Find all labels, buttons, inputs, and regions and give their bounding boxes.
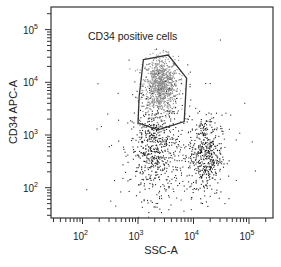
event-dot: [159, 95, 160, 96]
event-dot: [172, 82, 173, 83]
event-dot: [162, 62, 163, 63]
event-dot: [185, 146, 186, 147]
event-dot: [173, 189, 174, 190]
event-dot: [183, 158, 184, 159]
event-dot: [144, 140, 145, 141]
event-dot: [160, 78, 161, 79]
event-dot: [209, 174, 210, 175]
event-dot: [211, 171, 212, 172]
event-dot: [150, 71, 151, 72]
event-dot: [155, 105, 156, 106]
event-dot: [153, 138, 154, 139]
event-dot: [168, 59, 169, 60]
event-dot: [152, 70, 153, 71]
event-dot: [170, 111, 171, 112]
event-dot: [157, 64, 158, 65]
event-dot: [201, 165, 202, 166]
event-dot: [167, 138, 168, 139]
event-dot: [151, 125, 152, 126]
event-dot: [204, 156, 205, 157]
event-dot: [162, 139, 163, 140]
event-dot: [190, 156, 191, 157]
event-dot: [160, 97, 161, 98]
y-axis-title: CD34 APC-A: [7, 79, 19, 144]
event-dot: [180, 90, 181, 91]
event-dot: [161, 212, 162, 213]
event-dot: [141, 169, 142, 170]
event-dot: [218, 163, 219, 164]
event-dot: [212, 129, 213, 130]
event-dot: [144, 155, 145, 156]
event-dot: [154, 178, 155, 179]
event-dot: [165, 93, 166, 94]
event-dot: [166, 65, 167, 66]
event-dot: [141, 137, 142, 138]
event-dot: [142, 84, 143, 85]
event-dot: [161, 83, 162, 84]
event-dot: [172, 77, 173, 78]
event-dot: [170, 121, 171, 122]
event-dot: [174, 118, 175, 119]
event-dot: [158, 97, 159, 98]
event-dot: [157, 63, 158, 64]
event-dot: [175, 99, 176, 100]
event-dot: [157, 117, 158, 118]
event-dot: [181, 200, 182, 201]
event-dot: [156, 85, 157, 86]
event-dot: [166, 93, 167, 94]
event-dot: [158, 99, 159, 100]
event-dot: [174, 143, 175, 144]
event-dot: [149, 167, 150, 168]
event-dot: [182, 181, 183, 182]
event-dot: [152, 71, 153, 72]
event-dot: [175, 85, 176, 86]
event-dot: [142, 90, 143, 91]
event-dot: [150, 87, 151, 88]
event-dot: [164, 165, 165, 166]
event-dot: [197, 136, 198, 137]
event-dot: [183, 144, 184, 145]
event-dot: [143, 172, 144, 173]
event-dot: [150, 82, 151, 83]
event-dot: [147, 112, 148, 113]
event-dot: [170, 205, 171, 206]
event-dot: [154, 91, 155, 92]
event-dot: [209, 169, 210, 170]
event-dot: [198, 172, 199, 173]
event-dot: [141, 166, 142, 167]
event-dot: [160, 166, 161, 167]
event-dot: [147, 104, 148, 105]
event-dot: [155, 127, 156, 128]
event-dot: [161, 87, 162, 88]
event-dot: [164, 63, 165, 64]
event-dot: [151, 118, 152, 119]
event-dot: [159, 162, 160, 163]
event-dot: [161, 121, 162, 122]
event-dot: [198, 189, 199, 190]
event-dot: [175, 127, 176, 128]
event-dot: [156, 137, 157, 138]
event-dot: [164, 132, 165, 133]
event-dot: [208, 155, 209, 156]
event-dot: [148, 70, 149, 71]
event-dot: [153, 63, 154, 64]
event-dot: [165, 59, 166, 60]
event-dot: [147, 140, 148, 141]
event-dot: [208, 163, 209, 164]
event-dot: [208, 173, 209, 174]
event-dot: [169, 106, 170, 107]
event-dot: [154, 90, 155, 91]
event-dot: [148, 80, 149, 81]
event-dot: [176, 91, 177, 92]
event-dot: [161, 88, 162, 89]
event-dot: [153, 184, 154, 185]
event-dot: [174, 156, 175, 157]
event-dot: [157, 82, 158, 83]
event-dot: [236, 140, 237, 141]
event-dot: [168, 82, 169, 83]
event-dot: [179, 74, 180, 75]
event-dot: [177, 113, 178, 114]
event-dot: [209, 166, 210, 167]
x-tick-label: 102: [73, 229, 88, 242]
event-dot: [222, 133, 223, 134]
